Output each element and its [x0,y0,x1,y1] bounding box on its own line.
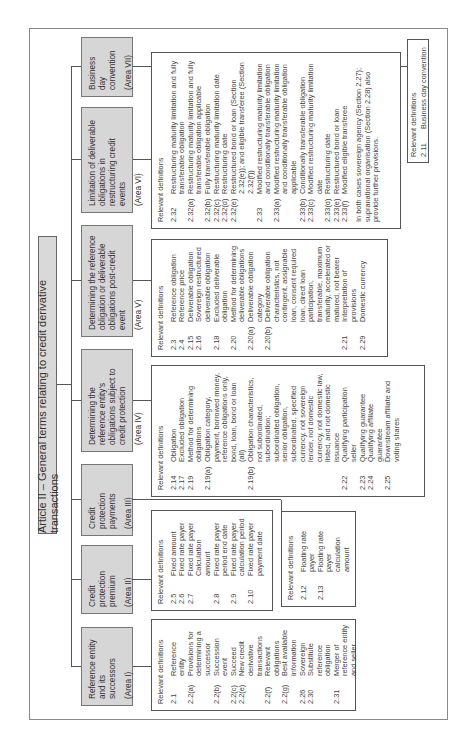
definitions-note: In both cases sovereign agency (Section … [355,58,381,222]
definitions-heading: Relevant definitions [157,245,166,350]
definition-row: 2.29Domestic currency [359,245,368,350]
stub-area-1 [71,666,81,667]
definition-row: 2.13Floating rate payer calculation amou… [317,517,351,600]
definition-row: 2.11Business day convention [420,47,429,157]
definition-row: 2.21Interpretation of provisions [341,245,358,350]
link-area-7-h [407,39,408,67]
link-area-3-v [133,499,281,500]
definitions-heading: Relevant definitions [157,516,166,604]
area-name: Credit protection premium [88,550,118,607]
definition-row: 2.33(a)Modified restructuring maturity l… [273,58,299,222]
definition-row: 2.24Qualifying affiliate guarantee [367,371,384,490]
definition-row: 2.20Method for determining deliverable o… [230,245,247,350]
area-label: (Area VII) [124,42,134,90]
stub-area-4 [71,400,81,401]
title-connector [57,384,71,385]
area-box-7: Business day convention (Area VII) [81,37,133,97]
definition-row: 2.19(a)Obligation category, payment, bor… [204,371,247,490]
definition-row: 2.2(a)Provisions for determining a succe… [187,625,213,704]
stub-area-6 [71,159,81,160]
area-box-6: Limitation of deliverable obligations in… [81,107,133,213]
definitions-area-2: Relevant definitions 2.5Fixed amount 2.6… [151,510,273,611]
definition-row: 2.20(b)Deliverable obligation characteri… [264,245,341,350]
definition-row: 2.22Qualifying participation seller [341,371,358,490]
definitions-list: 2.12Floating rate payer 2.13Floating rat… [300,517,352,600]
area-name: Determining the reference entity's oblig… [88,354,128,445]
definitions-heading: Relevant definitions [287,517,296,600]
area-box-4: Determining the reference entity's oblig… [81,349,133,452]
stub-area-5 [71,280,81,281]
area-box-3: Credit protection payments (Area III) [81,464,133,536]
definition-row: 2.7Fixed rate payer Calculation amount [187,516,213,604]
definition-row: 2.2(f)Relevant obligations [264,625,281,704]
definition-row: 2.31Merger of reference entity and selle… [333,625,359,704]
definitions-heading: Relevant definitions [157,58,166,222]
definitions-list: 2.32Restructuring maturity limitation an… [170,58,350,222]
definition-row: 2.33(c)Modified restructuring maturity l… [307,58,324,222]
diagram-title: Article II – General terms relating to c… [38,236,57,534]
definitions-area-4: Relevant definitions 2.14Obligation 2.17… [151,365,425,497]
link-area-2 [133,579,151,580]
definition-row: 2.25Downstream affiliate and voting shar… [384,371,401,490]
diagram-frame: Article II – General terms relating to c… [29,28,448,720]
definition-row: 2.10Fixed rate payer payment date [247,516,264,604]
stub-area-7 [71,66,81,67]
definition-row: 2.33Modified restructuring maturity limi… [256,58,273,222]
definition-row: 2.1Reference entity [170,625,187,704]
definitions-list: 2.5Fixed amount 2.6Fixed rate payer 2.7F… [170,516,265,604]
definition-row: 2.32(a)Restructuring maturity limitation… [187,58,204,222]
definition-row: 2.33(f)Modified eligible transferee [341,58,350,222]
definition-row: 2.32Restructuring maturity limitation an… [170,58,187,222]
area-label: (Area IV) [134,354,144,445]
definition-row: 2.9Fixed rate payer calculation period [230,516,247,604]
definitions-area-1: Relevant definitions 2.1Reference entity… [151,619,356,711]
link-area-3-h [281,500,282,511]
area-name: Limitation of deliverable obligations in… [88,112,128,206]
definitions-heading: Relevant definitions [410,45,419,157]
area-name: Reference entity and its successors [88,632,118,699]
definition-row: 2.8Fixed rate payer period end date [213,516,230,604]
definitions-area-7: Relevant definitions 2.11Business day co… [407,39,429,163]
definition-row: 2.19Method for determining obligations [187,371,204,490]
definitions-area-5: Relevant definitions 2.3Reference obliga… [151,239,388,357]
definition-row: 2.2(g)Best available information [281,625,298,704]
area-name: Credit protection payments [88,469,118,529]
stub-area-2 [71,579,81,580]
definitions-area-6: Relevant definitions 2.32Restructuring m… [151,52,401,229]
area-name: Determining the reference obligation or … [88,230,128,330]
definitions-list: 2.14Obligation 2.17Excluded obligation 2… [170,371,402,490]
definitions-list: 2.11Business day convention [420,47,429,157]
definition-row: 2.2(e)New credit derivative transactions [238,625,264,704]
area-label: (Area V) [134,230,144,330]
area-label: (Area I) [124,632,134,699]
definition-row: 2.30Substitute reference obligation [307,625,333,704]
link-area-1 [133,666,151,667]
tree-spine [71,67,72,667]
definition-row: 2.20(a)Deliverable obligation category [247,245,264,350]
area-label: (Area VI) [134,112,144,206]
area-name: Business day convention [88,42,118,90]
stub-area-3 [71,499,81,500]
definitions-heading: Relevant definitions [157,371,166,490]
area-label: (Area II) [124,550,134,607]
area-box-2: Credit protection premium (Area II) [81,545,133,614]
definition-row: 2.19(b)Obligation characteristics, not s… [247,371,342,490]
area-box-1: Reference entity and its successors (Are… [81,627,133,706]
area-label: (Area III) [124,469,134,529]
definition-row: 2.32(e)Restructured bond or loan (Sectio… [230,58,256,222]
definitions-list: 2.3Reference obligation 2.4Reference pri… [170,245,368,350]
definition-row: 2.2(b)Succession event [213,625,230,704]
definitions-list: 2.1Reference entity 2.2(a)Provisions for… [170,625,359,704]
definition-row: 2.12Floating rate payer [300,517,317,600]
definitions-heading: Relevant definitions [157,625,166,704]
area-box-5: Determining the reference obligation or … [81,225,133,337]
definition-row: 2.18Excluded deliverable obligation [213,245,230,350]
definition-row: 2.16Sovereign restructured deliverable o… [195,245,212,350]
definitions-area-3: Relevant definitions 2.12Floating rate p… [281,511,356,607]
